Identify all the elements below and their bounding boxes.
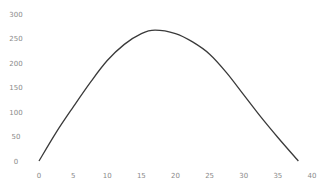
y-tick-label: 250 xyxy=(9,35,22,43)
x-tick-label: 35 xyxy=(273,172,282,180)
x-tick-label: 0 xyxy=(37,172,41,180)
y-axis: 300250200150100500 xyxy=(9,11,22,166)
y-tick-label: 200 xyxy=(9,60,22,68)
x-tick-label: 25 xyxy=(205,172,214,180)
y-tick-label: 100 xyxy=(9,109,22,117)
x-tick-label: 20 xyxy=(171,172,180,180)
x-tick-label: 15 xyxy=(137,172,146,180)
x-tick-label: 40 xyxy=(308,172,317,180)
y-tick-label: 300 xyxy=(9,11,22,19)
x-tick-label: 30 xyxy=(239,172,248,180)
x-tick-label: 10 xyxy=(103,172,112,180)
y-tick-label: 50 xyxy=(12,133,21,141)
x-tick-label: 5 xyxy=(71,172,75,180)
data-curve xyxy=(39,30,298,161)
y-tick-label: 150 xyxy=(9,84,22,92)
x-axis: 0510152025303540 xyxy=(37,172,317,180)
y-tick-label: 0 xyxy=(14,158,18,166)
line-chart: 300250200150100500 0510152025303540 xyxy=(0,0,330,188)
